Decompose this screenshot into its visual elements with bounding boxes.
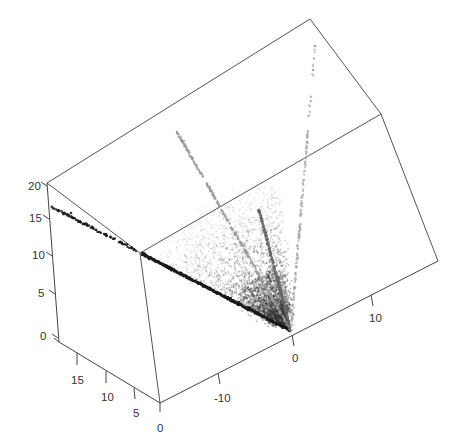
front-tick-label: 0 (292, 352, 298, 364)
front-tick-label: 10 (369, 312, 382, 324)
z-axis: 20 15 10 5 0 (28, 180, 59, 342)
depth-tick-label: 5 (133, 407, 139, 419)
box-edge-top-back (47, 19, 310, 183)
box-edge-top-right (310, 19, 381, 114)
scatter-3d-plot: 20 15 10 5 0 15 10 5 0 -10 0 10 (0, 0, 458, 447)
z-tick-label: 15 (29, 212, 42, 224)
box-edge-top-left (47, 183, 140, 253)
depth-tick-label: 10 (101, 391, 114, 403)
z-tick-label: 5 (38, 287, 44, 299)
box-edge-top-front (140, 114, 381, 253)
plot-box (47, 19, 438, 403)
depth-axis: 15 10 5 0 (54, 338, 163, 434)
z-tick-label: 0 (40, 330, 46, 342)
front-tick-label: -10 (214, 392, 231, 404)
data-points (51, 45, 317, 333)
depth-tick-label: 15 (71, 374, 84, 386)
z-tick-label: 10 (32, 249, 45, 261)
box-edge-front-vertical (140, 253, 160, 403)
z-tick-label: 20 (28, 180, 41, 192)
box-edge-right-vertical (381, 114, 438, 261)
depth-tick-label: 0 (157, 422, 163, 434)
